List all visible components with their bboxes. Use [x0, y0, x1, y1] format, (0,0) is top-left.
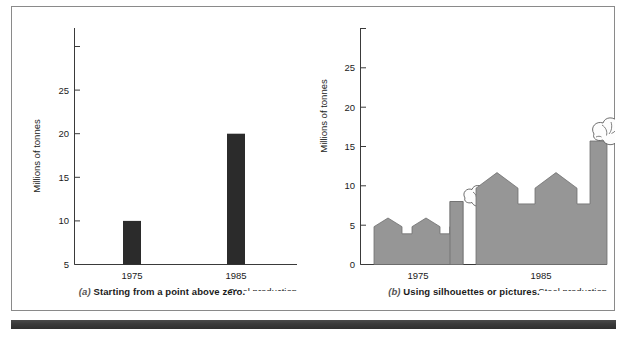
- chart-b-ytick-10: 10: [344, 180, 355, 191]
- chart-a-ytick-20: 20: [58, 128, 69, 139]
- chart-a-ytick-10: 10: [58, 215, 69, 226]
- chart-b-silhouette-pictogram: Millions of tonnes 0 5 10 15 20 25: [313, 6, 615, 291]
- chart-b-y-tick-labels: 0 5 10 15 20 25: [344, 62, 355, 270]
- chart-a-bar-1975: [123, 221, 141, 265]
- panel-a-caption: (a) Starting from a point above zero.: [11, 286, 313, 297]
- panel-b: Millions of tonnes 0 5 10 15 20 25: [313, 6, 615, 311]
- chart-b-ytick-5: 5: [350, 220, 355, 231]
- chart-a-ytick-25: 25: [58, 85, 69, 96]
- chart-b-y-ticks: [361, 29, 367, 265]
- chart-b-ytick-25: 25: [344, 62, 355, 73]
- chart-a-y-tick-labels: 5 10 15 20 25: [58, 85, 69, 270]
- chart-a-ytick-5: 5: [64, 259, 69, 270]
- chart-a-xtick-1985: 1985: [225, 270, 246, 281]
- panel-a-caption-tag: (a): [79, 286, 91, 297]
- panel-b-caption-tag: (b): [388, 286, 400, 297]
- chart-a-bar-1985: [227, 134, 245, 265]
- chart-a-bar-truncated-axis: Millions of tonnes 5 10 15 20 25: [11, 6, 313, 291]
- chart-a-y-ticks: [75, 47, 81, 265]
- chart-a-ytick-15: 15: [58, 172, 69, 183]
- panel-b-caption-text: Using silhouettes or pictures.: [403, 286, 540, 297]
- panel-a-caption-text: Starting from a point above zero.: [94, 286, 246, 297]
- chart-a-y-axis-title: Millions of tonnes: [31, 119, 42, 193]
- figure-root: Millions of tonnes 5 10 15 20 25: [0, 0, 626, 344]
- chart-b-ytick-0: 0: [350, 259, 355, 270]
- chart-b-chimney-1975: [450, 202, 463, 265]
- chart-b-ytick-20: 20: [344, 102, 355, 113]
- panel-a: Millions of tonnes 5 10 15 20 25: [11, 6, 313, 311]
- chart-b-y-axis-title: Millions of tonnes: [318, 79, 329, 153]
- figure-bottom-rule: [11, 320, 616, 329]
- chart-b-ytick-15: 15: [344, 141, 355, 152]
- panel-b-caption: (b) Using silhouettes or pictures.: [313, 286, 615, 297]
- chart-b-xtick-1975: 1975: [407, 270, 428, 281]
- chart-a-xtick-1975: 1975: [121, 270, 142, 281]
- chart-b-silhouette-1985: [476, 141, 607, 265]
- chart-b-xtick-1985: 1985: [530, 270, 551, 281]
